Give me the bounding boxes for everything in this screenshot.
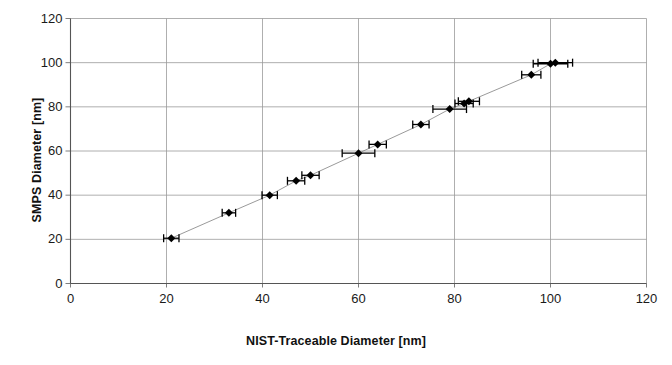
data-point-marker [374, 140, 382, 148]
x-tick-label: 0 [49, 291, 93, 306]
data-markers-group [167, 59, 559, 243]
x-tick-label: 40 [241, 291, 285, 306]
y-axis-title-wrapper: SMPS Diameter [nm] [30, 30, 50, 290]
data-point-marker [527, 71, 535, 79]
data-point-marker [355, 149, 363, 157]
y-tick-label: 120 [23, 11, 63, 26]
x-axis-title: NIST-Traceable Diameter [nm] [0, 334, 672, 348]
data-point-marker [167, 234, 175, 242]
scatter-plot-canvas [0, 0, 672, 365]
x-tick-label: 80 [433, 291, 477, 306]
x-tick-label: 20 [145, 291, 189, 306]
data-point-marker [417, 121, 425, 129]
data-point-marker [292, 177, 300, 185]
x-tick-marks-group [71, 284, 647, 288]
x-tick-label: 120 [625, 291, 669, 306]
data-point-marker [266, 191, 274, 199]
y-tick-marks-group [66, 19, 71, 284]
data-point-marker [307, 171, 315, 179]
data-point-marker [225, 209, 233, 217]
y-axis-title: SMPS Diameter [nm] [30, 30, 44, 290]
x-tick-label: 100 [529, 291, 573, 306]
x-tick-label: 60 [337, 291, 381, 306]
data-point-marker [446, 105, 454, 113]
chart-figure: 020406080100120 020406080100120 NIST-Tra… [0, 0, 672, 365]
